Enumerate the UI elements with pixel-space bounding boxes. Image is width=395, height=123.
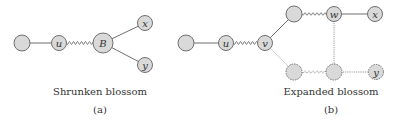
node-label: y [372,67,379,78]
node-unlabeled [178,35,194,51]
node-y: y [369,65,384,80]
edge-u-v [234,42,258,45]
edge-b_t-w [302,13,327,16]
edge-b_bl-b_bm [302,71,326,74]
caption-expanded-blossom: Expanded blossom [283,86,379,97]
node-u: u [52,36,67,51]
node-label: x [372,9,378,20]
node-label: v [262,38,268,49]
node-B: B [93,33,113,53]
node-label: x [142,18,148,29]
node-v: v [258,36,273,51]
sublabel-b: (b) [324,104,338,115]
sublabel-a: (a) [93,104,107,115]
node-label: w [330,9,339,20]
node-x: x [138,16,153,31]
node-label: u [56,38,62,49]
node-y: y [138,58,153,73]
edges-layer [22,13,376,74]
node-label: u [223,38,229,49]
node-label: y [141,60,148,71]
node-label: B [98,38,106,49]
node-unlabeled [14,35,30,51]
node-unlabeled [326,64,342,80]
node-x: x [368,7,383,22]
node-unlabeled [286,6,302,22]
edge-u-B [67,42,94,45]
caption-shrunken-blossom: Shrunken blossom [53,86,147,97]
blossom-diagram: uBxyuvwxy Shrunken blossom (a) Expanded … [0,0,395,123]
node-u: u [219,36,234,51]
node-w: w [327,7,342,22]
node-unlabeled [286,64,302,80]
